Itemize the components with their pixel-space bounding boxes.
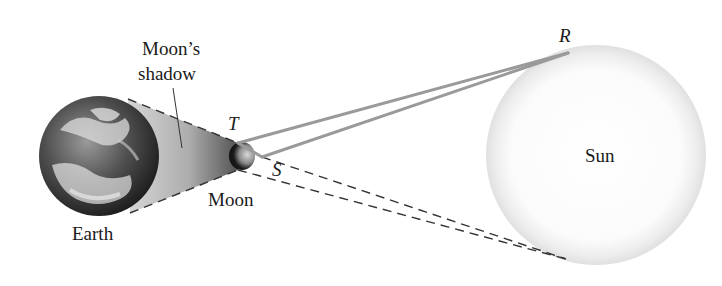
earth [39, 96, 159, 216]
label-point-t: T [228, 113, 240, 134]
label-point-r: R [558, 25, 571, 46]
eclipse-diagram: Moon’s shadow T S R Moon Earth Sun [0, 0, 722, 286]
label-point-s: S [272, 159, 282, 180]
label-moons-shadow-2: shadow [138, 63, 196, 84]
label-moons-shadow-1: Moon’s [142, 38, 200, 59]
label-sun: Sun [585, 145, 615, 166]
label-earth: Earth [72, 223, 114, 244]
label-moon: Moon [208, 189, 254, 210]
